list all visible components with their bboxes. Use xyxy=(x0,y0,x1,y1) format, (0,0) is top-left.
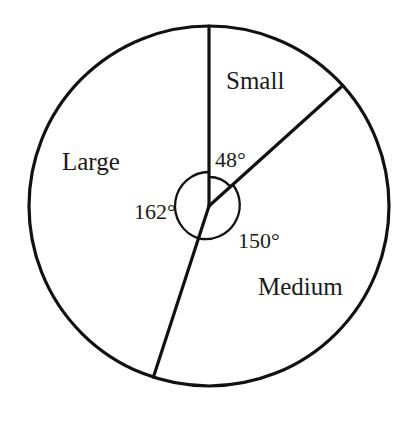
angle-label-150: 150° xyxy=(238,228,280,253)
pie-chart-figure: Small Large Medium 48° 162° 150° xyxy=(0,0,415,423)
slice-label-medium: Medium xyxy=(258,273,343,300)
slice-label-small: Small xyxy=(226,67,284,94)
angle-label-48: 48° xyxy=(215,147,246,172)
slice-label-large: Large xyxy=(62,148,120,175)
pie-chart-svg: Small Large Medium 48° 162° 150° xyxy=(0,0,415,423)
angle-label-162: 162° xyxy=(134,199,176,224)
